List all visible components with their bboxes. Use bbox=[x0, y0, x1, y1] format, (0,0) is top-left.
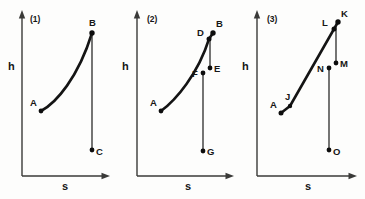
panel-3-y-axis-label: h bbox=[242, 60, 249, 72]
panel-3-point-O-dot bbox=[327, 148, 332, 153]
panel-3-point-M-dot bbox=[334, 61, 339, 66]
hs-diagram-set: h s (1) A B C h s (2) bbox=[0, 0, 365, 199]
panel-2-x-axis-arrowhead bbox=[226, 173, 235, 179]
panel-2-point-A-label: A bbox=[150, 97, 157, 108]
panel-1-expansion-curve-AB bbox=[41, 33, 92, 111]
panel-2-point-E-label: E bbox=[214, 63, 220, 74]
panel-1-point-B-label: B bbox=[89, 17, 96, 28]
panel-3-point-N-dot bbox=[327, 66, 332, 71]
panel-3-point-O-label: O bbox=[333, 146, 340, 157]
panel-1-point-B-dot bbox=[89, 30, 94, 35]
panel-2: h s (2) A D B E F G bbox=[122, 10, 234, 192]
panel-2-y-axis-arrowhead bbox=[134, 10, 140, 19]
panel-3-point-L-dot bbox=[332, 27, 337, 32]
panel-2-point-F-label: F bbox=[192, 68, 198, 79]
panel-2-tag: (2) bbox=[147, 14, 158, 24]
panel-3-point-K-label: K bbox=[341, 8, 348, 19]
panel-3-point-K-dot bbox=[335, 19, 340, 24]
panel-3-point-J-label: J bbox=[285, 91, 290, 102]
panel-1-point-C-dot bbox=[90, 148, 95, 153]
panel-3-x-axis-arrowhead bbox=[349, 173, 358, 179]
figure-root: h s (1) A B C h s (2) bbox=[0, 0, 365, 199]
panel-3-point-L-label: L bbox=[322, 17, 328, 28]
panel-1-point-C-label: C bbox=[96, 146, 103, 157]
panel-3: h s (3) A J L K M N O bbox=[242, 8, 357, 192]
panel-2-point-F-dot bbox=[201, 71, 206, 76]
panel-2-point-D-label: D bbox=[197, 27, 204, 38]
panel-2-point-G-label: G bbox=[207, 146, 214, 157]
panel-3-tag: (3) bbox=[267, 14, 278, 24]
panel-1-point-A-dot bbox=[39, 109, 44, 114]
panel-3-point-A-label: A bbox=[270, 99, 277, 110]
panel-2-point-B-label: B bbox=[216, 18, 223, 29]
panel-2-point-B-dot bbox=[210, 30, 215, 35]
panel-1-y-axis-label: h bbox=[8, 60, 15, 72]
panel-3-point-N-label: N bbox=[317, 63, 324, 74]
panel-2-point-A-dot bbox=[159, 109, 164, 114]
panel-2-y-axis-label: h bbox=[122, 60, 129, 72]
panel-3-point-M-label: M bbox=[340, 58, 348, 69]
panel-2-point-G-dot bbox=[201, 149, 206, 154]
panel-3-point-J-dot bbox=[288, 104, 292, 108]
panel-2-point-E-dot bbox=[208, 66, 213, 71]
panel-1-x-axis-arrowhead bbox=[102, 173, 111, 179]
panel-1-point-A-label: A bbox=[30, 97, 37, 108]
panel-3-y-axis-arrowhead bbox=[254, 10, 260, 19]
panel-1-tag: (1) bbox=[30, 14, 41, 24]
panel-1: h s (1) A B C bbox=[8, 10, 110, 192]
panel-2-point-D-dot bbox=[207, 37, 212, 42]
panel-1-y-axis-arrowhead bbox=[19, 10, 25, 19]
panel-1-x-axis-label: s bbox=[62, 180, 68, 192]
panel-3-point-A-dot bbox=[279, 111, 284, 116]
panel-3-x-axis-label: s bbox=[305, 180, 311, 192]
panel-2-x-axis-label: s bbox=[185, 180, 191, 192]
